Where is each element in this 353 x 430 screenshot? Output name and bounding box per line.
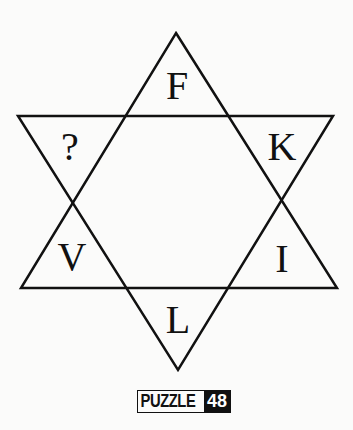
badge-word: PUZZLE: [138, 391, 192, 412]
puzzle-number-badge: PUZZLE 48: [137, 390, 231, 413]
letter-top: F: [166, 66, 188, 106]
letter-bottom: L: [166, 300, 190, 340]
badge-number: 48: [204, 391, 230, 412]
letter-upper-left-unknown: ?: [61, 127, 79, 167]
letter-upper-right: K: [268, 127, 297, 167]
letter-lower-right: I: [275, 239, 288, 279]
letter-lower-left: V: [58, 237, 87, 277]
